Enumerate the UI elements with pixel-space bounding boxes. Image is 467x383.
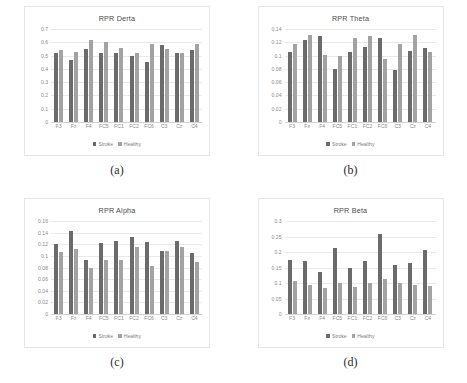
y-axis-tick-label: 0.7 [41,26,51,32]
legend-swatch-stroke-icon [93,334,97,338]
y-axis-tick-label: 0.3 [274,218,284,224]
bar-healthy [368,36,372,122]
bar-group [187,221,202,314]
x-axis-tick-label: C3 [390,315,405,325]
bar-stroke [190,253,194,314]
bar-healthy [165,251,169,314]
bar-healthy [165,49,169,122]
x-axis-tick-label: FC1 [345,123,360,133]
bar-stroke [378,38,382,122]
bar-stroke [54,244,58,314]
x-axis-tick-label: F4 [81,315,96,325]
y-axis-tick-label: 0.02 [38,299,51,305]
bar-stroke [303,261,307,314]
chart-title-alpha: RPR Alpha [25,206,209,215]
bar-stroke [288,260,292,314]
x-axis-tick-label: C4 [187,315,202,325]
bar-stroke [318,272,322,314]
bar-stroke [333,248,337,314]
legend-swatch-healthy-icon [352,142,356,146]
y-axis-tick-label: 0.1 [274,280,284,286]
legend-theta: Stroke Healthy [259,141,443,147]
y-axis-tick-label: 0.06 [272,79,285,85]
bar-healthy [59,252,63,314]
bar-stroke [333,69,337,122]
bar-healthy [180,247,184,314]
bar-stroke [160,251,164,314]
bar-group [142,221,157,314]
x-axis-tick-label: FC2 [360,123,375,133]
bar-stroke [145,62,149,122]
x-axis-tick-label: Cz [405,315,420,325]
x-axis-tick-label: F4 [81,123,96,133]
legend-swatch-healthy-icon [352,334,356,338]
y-axis-tick-label: 0.06 [38,276,51,282]
bar-healthy [150,44,154,122]
bar-stroke [408,51,412,122]
x-axis-tick-label: F4 [315,315,330,325]
chart-beta: RPR Beta 00.050.10.150.20.250.3 F3FzF4FC… [258,198,444,348]
x-axis-tick-label: Fz [66,123,81,133]
bar-group [126,29,141,122]
bar-stroke [114,53,118,122]
bar-group [345,29,360,122]
bar-group [96,221,111,314]
x-axis-tick-label: FC1 [111,315,126,325]
bar-series-container [285,221,436,314]
y-axis-tick-label: 0.6 [41,39,51,45]
plot-area-delta: 00.10.20.30.40.50.60.7 [51,29,202,122]
bar-healthy [135,53,139,122]
bar-group [66,221,81,314]
bar-stroke [408,263,412,314]
legend-label-stroke: Stroke [98,141,113,147]
x-axis-tick-label: C3 [157,123,172,133]
x-axis-tick-label: C4 [420,315,435,325]
plot-area-alpha: 00.020.040.060.080.10.120.140.16 [51,221,202,314]
x-axis-tick-label: F3 [51,315,66,325]
x-axis-tick-label: F3 [285,315,300,325]
x-axis-tick-label: C3 [390,123,405,133]
y-axis-tick-label: 0.4 [41,66,51,72]
legend-swatch-healthy-icon [118,334,122,338]
bar-series-container [285,29,436,122]
legend-beta: Stroke Healthy [259,333,443,339]
bar-healthy [368,283,372,314]
bar-healthy [89,268,93,315]
bar-group [142,29,157,122]
legend-label-healthy: Healthy [124,333,141,339]
bar-group [96,29,111,122]
bar-healthy [293,44,297,122]
chart-title-delta: RPR Derta [25,14,209,23]
bar-healthy [398,283,402,314]
y-axis-tick-label: 0.08 [38,265,51,271]
y-axis-tick-label: 0.02 [272,106,285,112]
bar-healthy [323,288,327,314]
bar-healthy [195,262,199,314]
bar-healthy [119,48,123,122]
bar-healthy [74,52,78,122]
x-axis-tick-label: F3 [51,123,66,133]
bar-healthy [293,281,297,314]
bar-stroke [378,234,382,314]
y-axis-tick-label: 0.14 [272,26,285,32]
legend-swatch-stroke-icon [326,142,330,146]
legend-label-stroke: Stroke [332,141,347,147]
legend-label-healthy: Healthy [357,333,374,339]
x-axis-tick-label: Fz [300,315,315,325]
bar-stroke [69,60,73,122]
bar-healthy [195,44,199,122]
bar-group [405,221,420,314]
bar-stroke [175,241,179,314]
panel-b: RPR Theta 00.020.040.060.080.10.120.14 F… [234,0,467,192]
bar-group [157,221,172,314]
y-axis-tick-label: 0.15 [272,265,285,271]
bar-group [285,29,300,122]
bar-stroke [54,53,58,122]
bar-stroke [84,49,88,122]
y-axis-tick-label: 0.3 [41,79,51,85]
bar-group [172,29,187,122]
bar-group [126,221,141,314]
bar-healthy [308,285,312,314]
figure-grid: RPR Derta 00.10.20.30.40.50.60.7 F3FzF4F… [0,0,467,383]
bar-stroke [99,243,103,314]
